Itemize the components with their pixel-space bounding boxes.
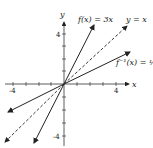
tick-y-4: 4	[56, 31, 61, 39]
label-f-inverse: f⁻¹(x) = ⅓x	[115, 58, 153, 67]
x-axis-label: x	[132, 80, 137, 89]
y-axis-label: y	[59, 10, 65, 19]
function-graph: f(x) = 3x y = x f⁻¹(x) = ⅓x x y -4 4 4 -…	[0, 0, 153, 148]
line-f-3x	[64, 25, 94, 84]
tick-y-neg4: -4	[53, 133, 60, 141]
line-f-inverse	[64, 52, 130, 84]
label-f: f(x) = 3x	[77, 15, 114, 24]
line-y-eq-x	[64, 26, 127, 84]
label-y-eq-x: y = x	[125, 15, 147, 24]
tick-x-neg4: -4	[9, 87, 16, 95]
tick-x-4: 4	[114, 87, 119, 95]
line-f-inverse-neg	[8, 84, 64, 112]
